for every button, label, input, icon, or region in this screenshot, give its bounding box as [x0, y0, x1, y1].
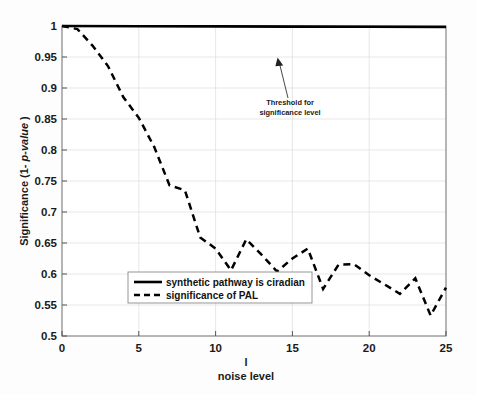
x-axis-mark: l: [244, 356, 247, 368]
x-tick-label-15: 15: [286, 342, 299, 354]
y-axis-title-prefix: Significance (1-: [18, 161, 30, 245]
x-axis-title: noise level: [218, 370, 274, 382]
y-tick-label-065: 0.65: [35, 237, 58, 249]
series-line-threshold: [62, 26, 446, 27]
x-tick-label-0: 0: [59, 342, 65, 354]
threshold-annotation-line2: significance level: [259, 108, 320, 117]
x-tick-label-5: 5: [136, 342, 143, 354]
y-tick-label-08: 0.8: [41, 144, 58, 156]
chart-canvas: 1 0.95 0.9 0.85 0.8 0.75 0.7 0.65 0.6 0.…: [0, 0, 477, 395]
y-tick-label-09: 0.9: [41, 82, 57, 94]
y-tick-label-06: 0.6: [41, 268, 57, 280]
y-tick-label-05: 0.5: [41, 330, 58, 342]
svg-text:Significance (1- p-value ): Significance (1- p-value ): [18, 116, 30, 246]
figure-container: 1 0.95 0.9 0.85 0.8 0.75 0.7 0.65 0.6 0.…: [0, 0, 477, 395]
y-tick-label-075: 0.75: [35, 175, 58, 187]
y-tick-label-085: 0.85: [35, 113, 58, 125]
y-axis-title: Significance (1- p-value ): [18, 116, 30, 246]
y-tick-label-055: 0.55: [35, 299, 58, 311]
legend-label-threshold: synthetic pathway is ciradian: [166, 277, 305, 288]
legend: synthetic pathway is ciradian significan…: [128, 272, 312, 303]
x-tick-label-25: 25: [440, 342, 453, 354]
y-axis-title-suffix: ): [18, 116, 30, 123]
y-tick-label-07: 0.7: [41, 206, 57, 218]
x-tick-label-20: 20: [363, 342, 376, 354]
y-tick-label-095: 0.95: [35, 51, 58, 63]
legend-label-pal: significance of PAL: [166, 290, 258, 301]
y-tick-label-1: 1: [51, 20, 58, 32]
y-axis-title-italic: p-value: [18, 123, 30, 163]
x-tick-label-10: 10: [209, 342, 222, 354]
threshold-annotation-line1: Threshold for: [266, 98, 314, 107]
